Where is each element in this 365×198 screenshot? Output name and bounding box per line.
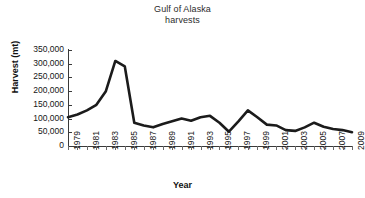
chart-plot-area — [0, 0, 365, 198]
data-series-line — [68, 61, 352, 132]
chart-container: Gulf of Alaska harvests Harvest (mt) 350… — [0, 0, 365, 198]
x-axis-title: Year — [0, 180, 365, 190]
